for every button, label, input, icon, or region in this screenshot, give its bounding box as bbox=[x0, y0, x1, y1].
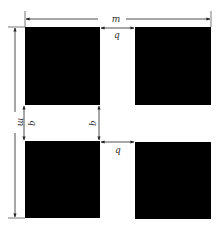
label-m-horizontal: m bbox=[112, 14, 121, 24]
block-array-diagram: m q m q q q bbox=[0, 0, 216, 228]
label-q-bottom: q bbox=[115, 145, 121, 155]
label-q-top: q bbox=[114, 30, 120, 40]
block-bottom-left bbox=[25, 141, 100, 218]
label-q-left: q bbox=[28, 120, 38, 126]
dimension-q-right: q bbox=[89, 106, 99, 140]
label-q-right: q bbox=[89, 120, 99, 126]
block-bottom-right bbox=[135, 142, 211, 219]
block-top-right bbox=[135, 27, 211, 105]
label-m-vertical: m bbox=[16, 118, 26, 127]
dimension-q-top: q bbox=[101, 28, 134, 40]
dimension-q-bottom: q bbox=[101, 142, 134, 155]
block-top-left bbox=[25, 27, 100, 105]
dimension-m-horizontal: m bbox=[26, 14, 210, 24]
